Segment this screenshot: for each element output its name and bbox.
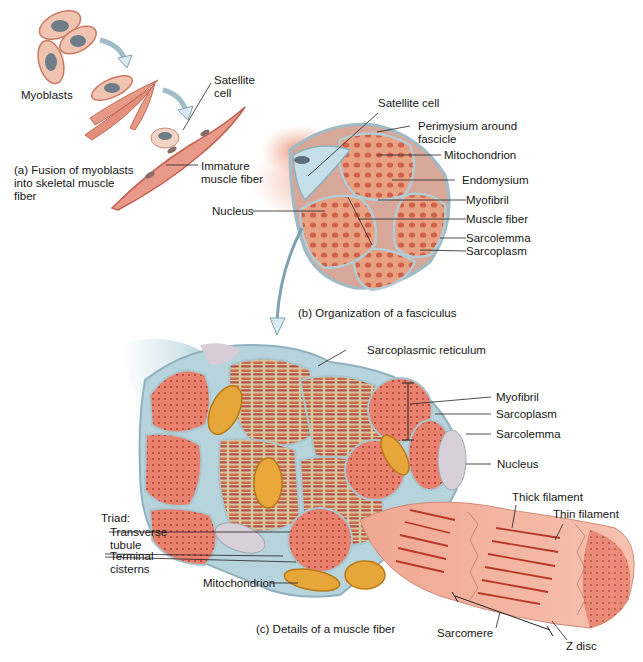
label-sarcoplasmic-reticulum: Sarcoplasmic reticulum: [367, 344, 486, 357]
label-satellite-cell-b: Satellite cell: [378, 97, 439, 110]
label-thick-filament: Thick filament: [512, 491, 583, 504]
arrow-icon: [270, 318, 285, 335]
myoblasts-illustration: [34, 5, 101, 87]
label-satellite-cell-a: Satellite cell: [214, 74, 255, 100]
panel-b-fasciculus: [250, 113, 466, 335]
label-thin-filament: Thin filament: [553, 508, 619, 521]
label-mitochondrion-c: Mitochondrion: [203, 577, 275, 590]
arrow-icon: [178, 106, 193, 120]
arrow-icon: [118, 55, 132, 68]
label-muscle-fiber: Muscle fiber: [466, 213, 528, 226]
label-immature-muscle-fiber: Immature muscle fiber: [201, 160, 263, 186]
label-triad: Triad:: [101, 512, 130, 525]
label-sarcoplasm-b: Sarcoplasm: [466, 245, 527, 258]
label-sarcolemma-c: Sarcolemma: [496, 428, 561, 441]
panel-c-muscle-fiber-detail: [105, 339, 634, 640]
caption-panel-c: (c) Details of a muscle fiber: [256, 623, 395, 636]
caption-panel-b: (b) Organization of a fasciculus: [298, 307, 457, 320]
label-z-disc: Z disc: [566, 640, 597, 653]
label-transverse-tubule: Transverse tubule: [110, 526, 167, 552]
label-myofibril-c: Myofibril: [496, 391, 539, 404]
label-sarcoplasm-c: Sarcoplasm: [496, 408, 557, 421]
label-sarcomere: Sarcomere: [437, 627, 493, 640]
mitochondrion-illustration: [345, 561, 385, 589]
label-mitochondrion-b: Mitochondrion: [444, 149, 516, 162]
nucleus-illustration: [438, 430, 466, 490]
label-nucleus-c: Nucleus: [497, 458, 539, 471]
label-perimysium: Perimysium around fascicle: [418, 120, 517, 146]
label-terminal-cisterns: Terminal cisterns: [110, 550, 153, 576]
label-myoblasts: Myoblasts: [21, 89, 73, 102]
label-endomysium: Endomysium: [462, 174, 528, 187]
label-nucleus-b: Nucleus: [212, 205, 254, 218]
fusing-myoblasts-illustration: [85, 71, 158, 140]
label-sarcolemma-b: Sarcolemma: [466, 232, 531, 245]
label-myofibril-b: Myofibril: [466, 194, 509, 207]
muscle-anatomy-figure: [0, 0, 643, 662]
caption-panel-a: (a) Fusion of myoblasts into skeletal mu…: [14, 164, 134, 203]
mitochondrion-illustration: [254, 458, 282, 508]
